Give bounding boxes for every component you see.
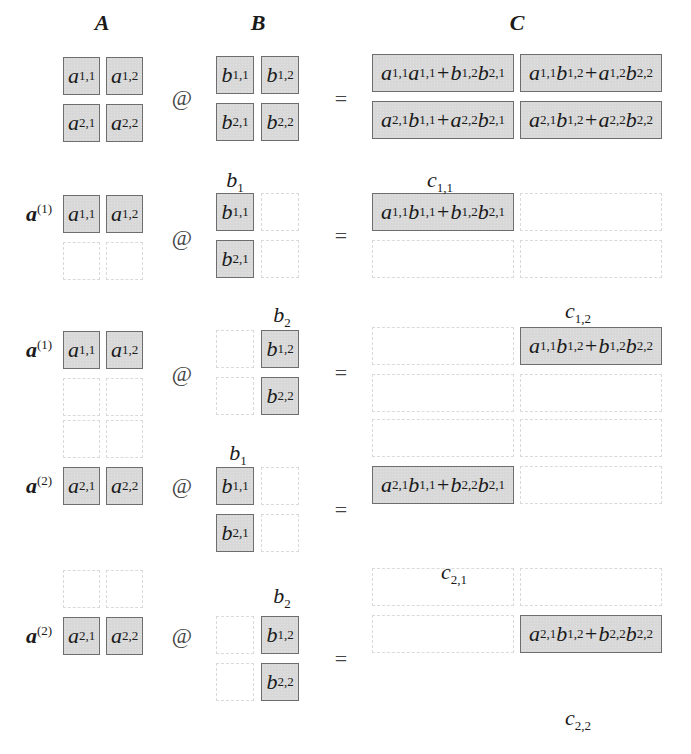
empty-cell (372, 568, 514, 606)
empty-cell (106, 570, 143, 608)
cell-b12: b1,2 (261, 56, 299, 94)
cell-b11: b1,1 (216, 56, 254, 94)
column-vector-label: b2 (252, 583, 312, 609)
empty-cell (63, 242, 100, 280)
step3-a-cell: a2,1 (63, 467, 100, 505)
cell-a21: a2,1 (63, 104, 100, 142)
step4-b-cell: b1,2 (261, 616, 299, 654)
empty-cell (261, 240, 299, 278)
matmul-operator: @ (167, 623, 197, 649)
empty-cell (216, 663, 254, 701)
step4-a-cell: a2,2 (106, 617, 143, 655)
empty-cell (216, 377, 254, 415)
empty-cell (261, 467, 299, 505)
empty-cell (63, 420, 100, 458)
column-vector-label: b2 (252, 302, 312, 328)
empty-cell (216, 330, 254, 368)
cell-a22: a2,2 (106, 104, 143, 142)
empty-cell (216, 616, 254, 654)
column-vector-label: b1 (208, 440, 268, 466)
empty-cell (372, 419, 514, 457)
row-vector-label: a(2) (26, 623, 52, 649)
matrix-a-title: A (82, 10, 122, 36)
step2-a-cell: a1,2 (106, 331, 143, 369)
row-vector-label: a(1) (26, 337, 52, 363)
step2-a-cell: a1,1 (63, 331, 100, 369)
row-vector-label: a(1) (26, 201, 52, 227)
equals-operator: = (326, 646, 356, 672)
cell-b22: b2,2 (261, 103, 299, 141)
matmul-operator: @ (167, 361, 197, 387)
matmul-operator: @ (167, 85, 197, 111)
empty-cell (106, 242, 143, 280)
empty-cell (520, 374, 662, 412)
step3-a-cell: a2,2 (106, 467, 143, 505)
cell-a12: a1,2 (106, 57, 143, 95)
empty-cell (520, 193, 662, 231)
equals-operator: = (326, 86, 356, 112)
empty-cell (106, 420, 143, 458)
output-cell-label: c2,2 (548, 705, 608, 731)
step2-c-cell: a1,1b1,2+b1,2b2,2 (520, 327, 662, 365)
step2-b-cell: b1,2 (261, 330, 299, 368)
empty-cell (261, 193, 299, 231)
cell-c11: a1,1a1,1+b1,2b2,1 (372, 54, 514, 92)
step1-b-cell: b2,1 (216, 240, 254, 278)
cell-c21: a2,1b1,1+a2,2b2,1 (372, 101, 514, 139)
empty-cell (520, 240, 662, 278)
empty-cell (372, 374, 514, 412)
empty-cell (63, 378, 100, 416)
cell-b21: b2,1 (216, 103, 254, 141)
empty-cell (520, 419, 662, 457)
step1-c-cell: a1,1b1,1+b1,2b2,1 (372, 193, 514, 231)
step1-a-cell: a1,2 (106, 195, 143, 233)
step4-c-cell: a2,1b1,2+b2,2b2,2 (520, 615, 662, 653)
empty-cell (261, 514, 299, 552)
step3-b-cell: b1,1 (216, 467, 254, 505)
cell-c12: a1,1b1,2+a1,2b2,2 (520, 54, 662, 92)
step3-b-cell: b2,1 (216, 514, 254, 552)
step4-b-cell: b2,2 (261, 663, 299, 701)
column-vector-label: b1 (205, 167, 265, 193)
step1-a-cell: a1,1 (63, 195, 100, 233)
output-cell-label: c1,2 (548, 298, 608, 324)
step4-a-cell: a2,1 (63, 617, 100, 655)
equals-operator: = (326, 223, 356, 249)
cell-a11: a1,1 (63, 57, 100, 95)
matrix-b-title: B (238, 10, 278, 36)
step1-b-cell: b1,1 (216, 193, 254, 231)
matrix-c-title: C (497, 10, 537, 36)
empty-cell (372, 327, 514, 365)
empty-cell (520, 466, 662, 504)
step2-b-cell: b2,2 (261, 377, 299, 415)
equals-operator: = (326, 360, 356, 386)
equals-operator: = (326, 497, 356, 523)
matmul-operator: @ (167, 473, 197, 499)
empty-cell (63, 570, 100, 608)
empty-cell (372, 615, 514, 653)
row-vector-label: a(2) (26, 473, 52, 499)
empty-cell (520, 568, 662, 606)
step3-c-cell: a2,1b1,1+b2,2b2,1 (372, 466, 514, 504)
cell-c22: a2,1b1,2+a2,2b2,2 (520, 101, 662, 139)
matmul-operator: @ (167, 225, 197, 251)
empty-cell (106, 378, 143, 416)
empty-cell (372, 240, 514, 278)
output-cell-label: c1,1 (410, 167, 470, 193)
